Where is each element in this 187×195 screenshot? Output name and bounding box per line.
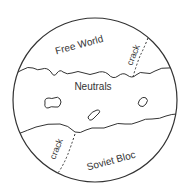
world-diagram: Free World Neutrals Soviet Bloc crack cr… <box>0 0 187 195</box>
region-label-neutrals: Neutrals <box>74 81 111 92</box>
